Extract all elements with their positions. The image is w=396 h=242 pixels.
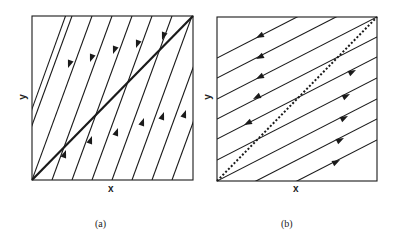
panel-a-trajectories <box>0 0 232 220</box>
panel-b-ylabel: y <box>203 94 213 100</box>
panel-b-arrows <box>243 32 358 167</box>
panel-a <box>0 0 232 220</box>
panel-a-xlabel: x <box>108 184 114 194</box>
panel-b-xlabel: x <box>293 184 299 194</box>
panel-a-caption: (a) <box>95 219 106 229</box>
panel-a-ylabel: y <box>18 94 28 100</box>
panel-b-caption: (b) <box>281 219 293 229</box>
figure-canvas <box>0 0 396 242</box>
panel-b-diagonal <box>217 17 377 181</box>
